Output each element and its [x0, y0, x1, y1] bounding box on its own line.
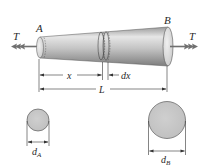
right-torque-label: T [189, 30, 196, 42]
dx-dimension [109, 74, 120, 77]
x-label: x [66, 70, 72, 81]
end-a-face [37, 37, 44, 58]
dx-label: dx [121, 70, 131, 81]
cross-section-a [27, 109, 49, 146]
end-b-label: B [164, 14, 171, 26]
cross-section-b [149, 102, 186, 156]
tapered-bar [37, 27, 174, 66]
diameter-a-label: dA [32, 146, 42, 159]
diameter-b-label: dB [161, 154, 171, 167]
l-label: L [98, 84, 105, 95]
left-torque-label: T [13, 30, 20, 42]
left-torque-arrow [11, 44, 38, 50]
end-a-label: A [35, 22, 43, 34]
tapered-bar-diagram: T A T B x [0, 0, 210, 168]
right-torque-arrow [170, 44, 198, 50]
